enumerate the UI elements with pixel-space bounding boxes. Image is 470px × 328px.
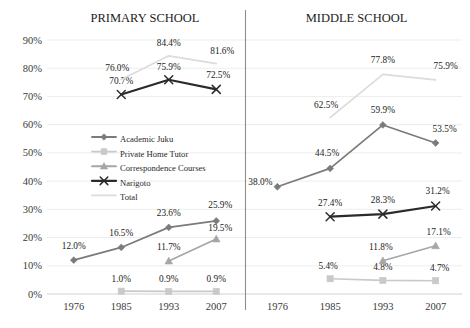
- y-tick-label: 60%: [23, 119, 43, 130]
- legend-label: Narigoto: [120, 178, 151, 188]
- series-private-home-tutor: 5.4%4.8%4.7%: [318, 261, 449, 284]
- data-label: 23.6%: [157, 208, 181, 218]
- marker-square: [433, 278, 439, 284]
- marker-square: [118, 288, 124, 294]
- series-narigoto: 27.4%28.3%31.2%: [318, 186, 450, 221]
- marker-triangle: [212, 235, 220, 242]
- data-label: 11.8%: [369, 242, 393, 252]
- series-line: [74, 221, 217, 260]
- x-tick-label: 1993: [372, 301, 393, 312]
- data-label: 81.6%: [210, 46, 234, 56]
- data-label: 4.7%: [430, 263, 450, 273]
- legend-item-private-home-tutor[interactable]: Private Home Tutor: [92, 149, 188, 159]
- data-label: 59.9%: [371, 105, 395, 115]
- x-tick-label: 1985: [320, 301, 341, 312]
- chart-legend: Academic JukuPrivate Home TutorCorrespon…: [92, 134, 206, 203]
- data-label: 31.2%: [426, 186, 450, 196]
- series-private-home-tutor: 1.0%0.9%0.9%: [112, 274, 227, 294]
- marker-diamond: [432, 140, 439, 147]
- x-tick-label: 1993: [158, 301, 179, 312]
- series-line: [277, 125, 435, 187]
- legend-item-narigoto[interactable]: Narigoto: [92, 177, 151, 188]
- y-tick-label: 20%: [23, 232, 43, 243]
- panel-title-middle: MIDDLE SCHOOL: [306, 11, 408, 25]
- x-tick-label: 1976: [267, 301, 288, 312]
- data-label: 84.4%: [157, 38, 181, 48]
- y-tick-label: 40%: [23, 176, 43, 187]
- data-label: 19.5%: [208, 223, 232, 233]
- data-label: 27.4%: [318, 198, 342, 208]
- y-tick-label: 80%: [23, 63, 43, 74]
- data-label: 28.3%: [371, 195, 395, 205]
- y-tick-label: 30%: [23, 204, 43, 215]
- y-tick-label: 70%: [23, 91, 43, 102]
- panel-title-primary: PRIMARY SCHOOL: [91, 11, 200, 25]
- series-line: [121, 80, 216, 95]
- y-tick-label: 0%: [28, 289, 42, 300]
- data-label: 17.1%: [427, 227, 451, 237]
- data-label: 44.5%: [315, 148, 339, 158]
- legend-label: Correspondence Courses: [120, 163, 206, 173]
- data-label: 76.0%: [105, 63, 129, 73]
- x-tick-label: 1985: [111, 301, 132, 312]
- data-label: 75.9%: [434, 61, 458, 71]
- two-panel-line-chart: 0%10%20%30%40%50%60%70%80%90%PRIMARY SCH…: [0, 0, 470, 328]
- panel-middle-school: 38.0%44.5%59.9%53.5%5.4%4.8%4.7%11.8%17.…: [248, 55, 458, 283]
- legend-item-total[interactable]: Total: [92, 192, 138, 202]
- data-label: 16.5%: [109, 228, 133, 238]
- legend-label: Private Home Tutor: [120, 149, 188, 159]
- data-label: 5.4%: [318, 261, 338, 271]
- marker-diamond: [274, 183, 281, 190]
- legend-label: Academic Juku: [120, 134, 174, 144]
- marker-diamond: [70, 257, 77, 264]
- y-tick-label: 10%: [23, 260, 43, 271]
- data-label: 1.0%: [112, 274, 132, 284]
- data-label: 77.8%: [371, 55, 395, 65]
- data-label: 25.9%: [208, 200, 232, 210]
- panel-titles: PRIMARY SCHOOLMIDDLE SCHOOL: [91, 11, 408, 25]
- data-label: 62.5%: [314, 100, 338, 110]
- data-label: 38.0%: [248, 177, 272, 187]
- x-tick-label: 2007: [206, 301, 227, 312]
- series-correspondence-courses: 11.8%17.1%: [369, 227, 451, 264]
- chart-canvas: 0%10%20%30%40%50%60%70%80%90%PRIMARY SCH…: [0, 0, 470, 328]
- y-tick-label: 90%: [23, 35, 43, 46]
- series-academic-juku: 38.0%44.5%59.9%53.5%: [248, 105, 457, 190]
- marker-square: [166, 288, 172, 294]
- marker-square: [101, 149, 107, 155]
- data-label: 70.7%: [109, 76, 133, 86]
- legend-item-correspondence-courses[interactable]: Correspondence Courses: [92, 163, 206, 174]
- x-tick-label: 2007: [425, 301, 446, 312]
- marker-square: [327, 276, 333, 282]
- data-label: 0.9%: [159, 274, 179, 284]
- data-label: 12.0%: [62, 241, 86, 251]
- marker-square: [380, 277, 386, 283]
- marker-diamond: [118, 244, 125, 251]
- x-axis-labels: 19761985199320071976198519932007: [63, 301, 446, 312]
- data-label: 75.9%: [157, 62, 181, 72]
- marker-diamond: [101, 134, 107, 140]
- x-tick-label: 1976: [63, 301, 84, 312]
- data-label: 0.9%: [207, 274, 227, 284]
- data-label: 11.7%: [157, 242, 181, 252]
- data-label: 53.5%: [433, 124, 457, 134]
- marker-square: [213, 288, 219, 294]
- data-label: 72.5%: [206, 70, 230, 80]
- legend-item-academic-juku[interactable]: Academic Juku: [92, 134, 174, 144]
- marker-diamond: [165, 224, 172, 231]
- y-tick-label: 50%: [23, 147, 43, 158]
- marker-triangle: [432, 242, 440, 249]
- y-axis-labels: 0%10%20%30%40%50%60%70%80%90%: [23, 35, 43, 300]
- legend-label: Total: [120, 192, 138, 202]
